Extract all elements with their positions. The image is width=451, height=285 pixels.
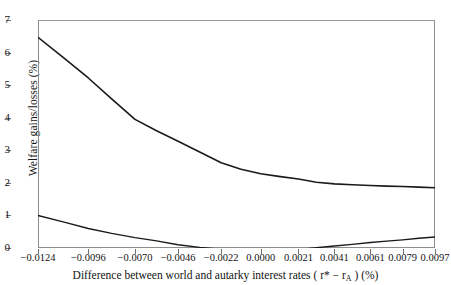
x-axis-title-mid: − r: [330, 269, 346, 281]
plot-area: [38, 20, 435, 248]
x-axis-title: Difference between world and autarky int…: [0, 269, 451, 285]
y-tick-label: 1: [0, 209, 10, 220]
y-tick-label: 7: [0, 14, 10, 25]
x-axis-title-prefix: Difference between world and autarky int…: [73, 269, 324, 281]
y-axis-tick-group: 01234567: [6, 20, 36, 248]
x-tick-label: 0.0097: [405, 252, 451, 264]
y-tick-label: 3: [0, 144, 10, 155]
y-tick-label: 2: [0, 177, 10, 188]
y-tick-label: 5: [0, 79, 10, 90]
chart-curves: [38, 20, 435, 248]
x-axis-title-suffix: ) (%): [352, 269, 379, 281]
series-lower-curve: [38, 215, 435, 248]
y-tick-label: 4: [0, 112, 10, 123]
series-upper-curve: [38, 37, 435, 187]
y-tick-label: 6: [0, 47, 10, 58]
x-axis-tick-group: −0.0124−0.0096−0.0070−0.0046−0.00220.000…: [38, 249, 435, 269]
